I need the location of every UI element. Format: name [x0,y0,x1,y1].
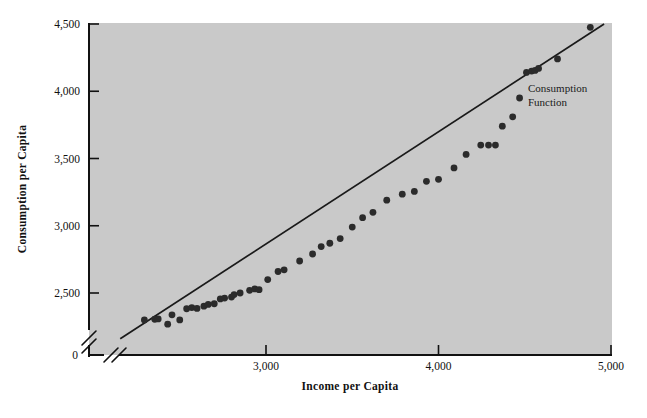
data-point [264,276,271,283]
data-point [169,311,176,318]
data-point [463,151,470,158]
y-tick-label: 2,500 [54,287,80,300]
data-point [176,317,183,324]
y-tick-label: 3,000 [54,220,80,233]
data-point [587,24,594,31]
data-point [554,56,561,63]
data-point [492,142,499,149]
y-tick-label: 4,500 [54,18,80,31]
data-point [275,268,282,275]
data-point [337,235,344,242]
data-point [155,316,162,323]
data-point [383,197,390,204]
data-point [370,209,377,216]
origin-label: 0 [72,349,78,361]
data-point [194,305,201,312]
data-point [164,321,171,328]
x-tick-label: 5,000 [598,360,624,373]
data-point [141,317,148,324]
y-tick-label: 4,000 [54,85,80,98]
x-axis-tick-labels: 3,0004,0005,000 [253,360,624,373]
data-point [477,142,484,149]
data-point [211,300,218,307]
annotation-line-2: Function [528,96,568,108]
data-point [256,286,263,293]
data-point [205,301,212,308]
chart-figure: 2,5003,0003,5004,0004,500 3,0004,0005,00… [0,0,647,418]
x-tick-label: 3,000 [253,360,279,373]
y-axis-tick-labels: 2,5003,0003,5004,0004,500 [54,18,80,300]
data-point [318,243,325,250]
data-point [296,258,303,265]
data-point [309,251,316,258]
data-point [451,165,458,172]
annotation-line-1: Consumption [528,82,588,94]
data-point [499,123,506,130]
data-point [359,214,366,221]
x-axis-title: Income per Capita [302,380,399,393]
data-point [485,142,492,149]
data-point [221,295,228,302]
x-tick-label: 4,000 [426,360,452,373]
data-point [237,290,244,297]
data-point [423,178,430,185]
y-tick-label: 3,500 [54,153,80,166]
data-point [281,266,288,273]
data-point [535,65,542,72]
data-point [326,240,333,247]
data-point [509,113,516,120]
data-point [349,224,356,231]
data-point [435,176,442,183]
y-axis-title: Consumption per Capita [16,125,29,253]
scatter-chart: 2,5003,0003,5004,0004,500 3,0004,0005,00… [0,0,647,418]
data-point [516,95,523,102]
data-point [231,291,238,298]
data-point [411,188,418,195]
data-point [399,191,406,198]
